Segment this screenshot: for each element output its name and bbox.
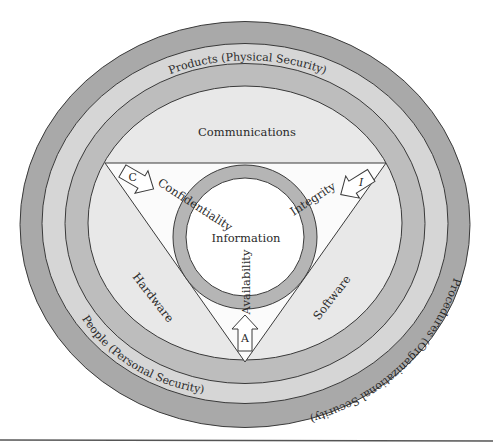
svg-text:A: A — [240, 332, 250, 345]
svg-text:I: I — [358, 176, 364, 189]
svg-text:C: C — [129, 171, 137, 184]
communications-label: Communications — [198, 125, 296, 139]
security-layers-diagram: Products (Physical Security) People (Per… — [0, 0, 493, 444]
bottom-divider — [0, 440, 493, 441]
availability-label: Availability — [239, 249, 253, 315]
information-label: Information — [211, 231, 281, 245]
